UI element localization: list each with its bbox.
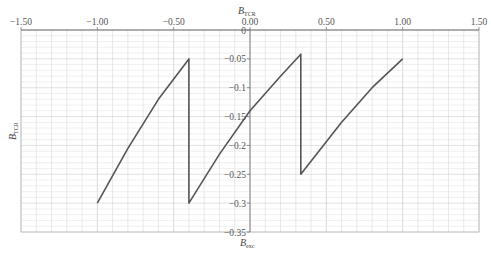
y-tick-label: −0.05 (224, 54, 246, 64)
axes (21, 27, 479, 232)
y-tick-label: −0.1 (229, 83, 246, 93)
x-tick-label: 1.00 (394, 17, 411, 27)
y-tick-label: 0 (241, 26, 246, 36)
x-tick-label: −0.50 (163, 17, 185, 27)
y-tick-label: −0.3 (229, 199, 246, 209)
x-axis-title-top: BTCR (238, 5, 256, 17)
y-tick-label: −0.2 (229, 141, 246, 151)
chart: −1.50−1.00−0.500.000.501.001.50 0−0.05−0… (0, 0, 491, 257)
y-axis-title: BTCR (7, 122, 19, 140)
y-tick-label: −0.35 (224, 228, 246, 238)
x-tick-labels: −1.50−1.00−0.500.000.501.001.50 (10, 17, 488, 27)
x-tick-label: −1.00 (86, 17, 108, 27)
x-tick-label: 0.50 (318, 17, 335, 27)
x-tick-label: 1.50 (471, 17, 488, 27)
y-tick-label: −0.25 (224, 170, 246, 180)
x-tick-label: −1.50 (10, 17, 32, 27)
x-axis-title-bottom: Bexc (240, 237, 255, 249)
